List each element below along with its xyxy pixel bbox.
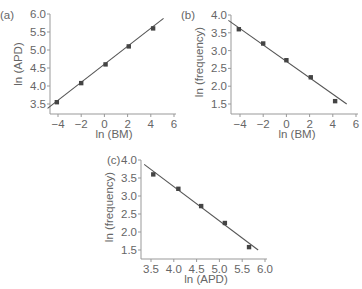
y-tick-label: 3.0 [121, 190, 137, 202]
data-point [199, 204, 203, 208]
x-tick-label: −4 [51, 118, 65, 130]
panel-b: (b) ln (BM) ln (frequency) 1.52.02.53.03… [181, 9, 359, 140]
data-point [176, 187, 180, 191]
y-tick-label: 1.5 [121, 244, 137, 256]
data-point [223, 221, 227, 225]
y-tick-label: 5.0 [30, 44, 46, 56]
x-tick-label: 0 [101, 118, 107, 130]
data-point [103, 62, 107, 66]
x-tick-label: −4 [233, 118, 247, 130]
data-point [261, 41, 265, 45]
x-tick-label: 6 [353, 118, 359, 130]
y-axis-label: ln (frequency) [103, 172, 115, 242]
data-point [247, 245, 251, 249]
y-tick-label: 4.0 [121, 154, 137, 166]
y-tick-label: 2.5 [121, 208, 137, 220]
y-tick-label: 3.5 [121, 172, 137, 184]
data-point [237, 27, 241, 31]
x-tick-label: 4.5 [189, 263, 205, 275]
y-axis-label: ln (frequency) [193, 27, 205, 97]
data-point [127, 44, 131, 48]
panel-a: (a) ln (BM) ln (APD) 3.54.04.55.05.56.0−… [0, 8, 177, 140]
axes [50, 14, 176, 114]
x-tick-label: 2 [306, 118, 312, 130]
data-point [309, 75, 313, 79]
y-tick-label: 6.0 [30, 8, 46, 20]
x-tick-label: 5.0 [211, 263, 227, 275]
x-tick-label: 4 [148, 118, 155, 130]
x-tick-label: 6.0 [257, 263, 273, 275]
data-point [333, 99, 337, 103]
data-point [151, 172, 155, 176]
data-point [284, 58, 288, 62]
data-point [151, 26, 155, 30]
y-tick-label: 3.5 [30, 98, 46, 110]
y-tick-label: 4.0 [30, 80, 46, 92]
y-tick-label: 2.0 [121, 226, 137, 238]
y-tick-label: 4.5 [30, 62, 46, 74]
panel-label: (a) [0, 9, 14, 21]
data-point [55, 100, 59, 104]
x-tick-label: 6 [171, 118, 177, 130]
y-tick-label: 2.5 [211, 62, 227, 74]
x-tick-label: 2 [124, 118, 130, 130]
x-tick-label: 4.0 [166, 263, 182, 275]
y-tick-label: 4.0 [211, 9, 227, 21]
x-tick-label: 4 [330, 118, 337, 130]
x-tick-label: 3.5 [143, 263, 159, 275]
data-point [79, 81, 83, 85]
y-tick-label: 5.5 [30, 26, 46, 38]
figure: (a) ln (BM) ln (APD) 3.54.04.55.05.56.0−… [0, 0, 362, 289]
x-tick-label: 0 [283, 118, 289, 130]
y-tick-label: 3.5 [211, 27, 227, 39]
panel-label: (b) [181, 9, 195, 21]
x-tick-label: 5.5 [234, 263, 250, 275]
y-tick-label: 3.0 [211, 45, 227, 57]
panel-c: (c) ln (APD) ln (frequency) 1.52.02.53.0… [103, 154, 273, 285]
y-tick-label: 2.0 [211, 80, 227, 92]
y-tick-label: 1.5 [211, 98, 227, 110]
x-tick-label: −2 [257, 118, 270, 130]
y-axis-label: ln (APD) [12, 42, 24, 86]
panel-label: (c) [107, 154, 121, 166]
x-tick-label: −2 [75, 118, 88, 130]
